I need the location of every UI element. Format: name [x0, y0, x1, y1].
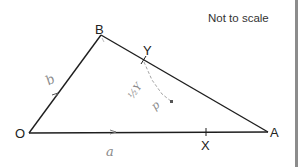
arrow-OB-icon: [52, 93, 58, 97]
edge-OB: [29, 35, 101, 133]
vertex-label-A: A: [270, 126, 279, 139]
diagram-svg: [0, 0, 302, 167]
edge-OA: [29, 132, 268, 133]
right-border: [295, 0, 298, 167]
not-to-scale-note: Not to scale: [208, 13, 269, 25]
pencil-mark-B: [102, 38, 104, 42]
point-label-Y: Y: [143, 44, 152, 57]
handwritten-a: a: [106, 145, 114, 158]
vertex-label-O: O: [15, 127, 25, 140]
edge-BA: [101, 35, 268, 132]
point-label-X: X: [201, 139, 210, 152]
vertex-label-B: B: [95, 23, 104, 36]
pencil-dot: [170, 100, 173, 103]
triangle-diagram: B Y O A X Not to scale b a ½Y p: [0, 0, 302, 167]
